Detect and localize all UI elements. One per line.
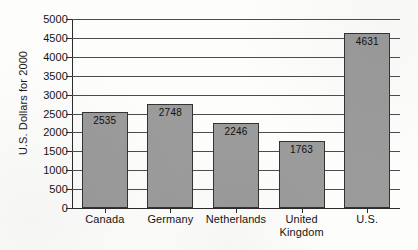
x-axis-category-label: UnitedKingdom: [269, 213, 335, 239]
category-label-line: United: [285, 213, 317, 225]
bar: 2246: [213, 123, 259, 208]
bar: 2535: [82, 112, 128, 208]
y-axis-tick-mark: [66, 76, 72, 77]
category-label-line: Canada: [85, 213, 124, 225]
y-axis-tick-labels: 5000450040003500300025002000150010005000: [24, 0, 68, 250]
bar-chart: U.S. Dollars for 2000 500045004000350030…: [0, 0, 418, 250]
y-axis-tick-mark: [66, 57, 72, 58]
category-label-line: Kingdom: [269, 226, 335, 239]
bar-value-label: 2748: [148, 107, 192, 118]
bar: 2748: [147, 104, 193, 208]
y-axis-tick-label: 3500: [24, 71, 68, 82]
bar-value-label: 1763: [280, 144, 324, 155]
y-axis-tick-mark: [66, 151, 72, 152]
bar-value-label: 2535: [83, 115, 127, 126]
y-axis-tick-label: 2500: [24, 109, 68, 120]
x-axis-category-label: U.S.: [334, 213, 400, 226]
category-label-line: Germany: [147, 213, 193, 225]
y-axis-tick-label: 5000: [24, 14, 68, 25]
y-axis-tick-label: 3000: [24, 90, 68, 101]
x-axis-category-label: Netherlands: [203, 213, 269, 226]
bar: 1763: [279, 141, 325, 208]
y-axis-tick-label: 0: [24, 203, 68, 214]
y-axis-tick-mark: [66, 38, 72, 39]
bar: 4631: [344, 33, 390, 208]
y-axis-tick-label: 4500: [24, 33, 68, 44]
gridline: [72, 19, 400, 20]
y-axis-tick-mark: [66, 95, 72, 96]
bar-value-label: 4631: [345, 36, 389, 47]
y-axis-tick-label: 4000: [24, 52, 68, 63]
x-axis-category-label: Germany: [138, 213, 204, 226]
y-axis-tick-label: 1500: [24, 146, 68, 157]
category-label-line: Netherlands: [206, 213, 266, 225]
y-axis-tick-mark: [66, 170, 72, 171]
y-axis-tick-label: 1000: [24, 165, 68, 176]
x-axis-category-label: Canada: [72, 213, 138, 226]
y-axis-tick-mark: [66, 132, 72, 133]
plot-area: 25352748224617634631: [72, 19, 400, 208]
bar-value-label: 2246: [214, 126, 258, 137]
y-axis-tick-mark: [66, 114, 72, 115]
y-axis-tick-mark: [66, 19, 72, 20]
category-label-line: U.S.: [356, 213, 378, 225]
y-axis-tick-label: 2000: [24, 127, 68, 138]
y-axis-tick-mark: [66, 189, 72, 190]
y-axis-tick-mark: [66, 208, 72, 209]
y-axis-tick-label: 500: [24, 184, 68, 195]
